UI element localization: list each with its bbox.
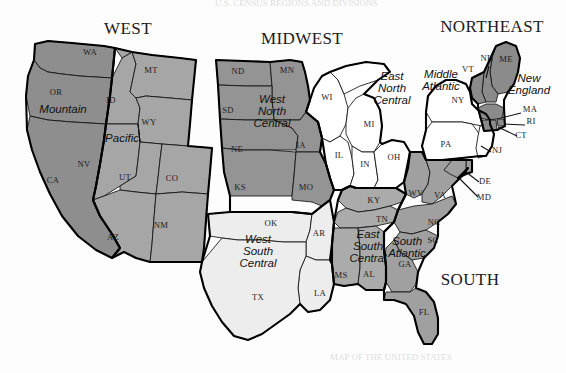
- state-label-FL: FL: [419, 307, 430, 317]
- state-label-AL: AL: [363, 269, 375, 279]
- state-label-WA: WA: [83, 47, 97, 57]
- state-label-ND: ND: [231, 66, 244, 76]
- state-label-AZ: AZ: [107, 232, 119, 242]
- state-label-KS: KS: [234, 182, 246, 192]
- state-label-NC: NC: [428, 217, 441, 227]
- state-label-NM: NM: [154, 220, 169, 230]
- state-label-GA: GA: [398, 259, 412, 269]
- region-heading-south: SOUTH: [441, 270, 500, 289]
- state-label-OK: OK: [264, 218, 278, 228]
- state-label-MS: MS: [334, 270, 347, 280]
- state-label-CO: CO: [166, 173, 179, 183]
- state-label-NH: NH: [480, 53, 493, 63]
- division-label-pacific: Pacific: [105, 132, 139, 144]
- state-label-MN: MN: [280, 65, 295, 75]
- state-label-OR: OR: [50, 87, 63, 97]
- state-label-NY: NY: [451, 95, 464, 105]
- callout-line-ri: [504, 124, 525, 125]
- state-label-IN: IN: [360, 159, 370, 169]
- state-label-ME: ME: [499, 54, 513, 64]
- division-label-line: Pacific: [105, 132, 139, 144]
- division-label-line: Central: [253, 117, 291, 129]
- state-label-VA: VA: [434, 190, 446, 200]
- region-heading-midwest: MIDWEST: [261, 29, 343, 48]
- state-label-WI: WI: [321, 92, 333, 102]
- state-label-UT: UT: [119, 172, 132, 182]
- state-label-MO: MO: [299, 182, 313, 192]
- division-label-line: East: [356, 228, 380, 240]
- division-label-line: East: [380, 70, 404, 82]
- division-label-line: Central: [373, 94, 411, 106]
- state-label-VT: VT: [462, 64, 475, 74]
- state-label-LA: LA: [314, 288, 327, 298]
- division-label-middle-atlantic: MiddleAtlantic: [421, 68, 460, 92]
- state-label-IA: IA: [296, 140, 306, 150]
- state-label-KY: KY: [367, 195, 380, 205]
- division-label-mountain: Mountain: [39, 103, 86, 115]
- division-label-line: West: [245, 233, 272, 245]
- state-label-NV: NV: [77, 159, 91, 169]
- state-label-WY: WY: [142, 117, 157, 127]
- division-label-line: South: [353, 240, 383, 252]
- state-label-SD: SD: [222, 105, 234, 115]
- region-heading-northeast: NORTHEAST: [440, 17, 544, 36]
- state-label-CA: CA: [47, 175, 60, 185]
- division-label-south-atlantic: SouthAtlantic: [387, 235, 426, 259]
- state-label-NE: NE: [231, 144, 243, 154]
- state-label-MD: MD: [477, 192, 491, 202]
- division-label-line: South: [243, 245, 273, 257]
- callout-line-de: [466, 172, 479, 182]
- state-label-RI: RI: [526, 116, 535, 126]
- state-label-MA: MA: [523, 104, 538, 114]
- state-CO: [156, 144, 212, 194]
- state-label-IL: IL: [335, 150, 344, 160]
- division-label-line: West: [259, 93, 286, 105]
- state-KS: [222, 148, 296, 196]
- state-label-CT: CT: [515, 130, 527, 140]
- division-label-line: North: [378, 82, 406, 94]
- division-label-line: Central: [239, 257, 277, 269]
- state-label-WV: WV: [409, 188, 424, 198]
- state-PA: [422, 122, 482, 160]
- callout-line-ct: [498, 127, 517, 136]
- division-label-line: Central: [349, 252, 387, 264]
- state-label-DE: DE: [479, 176, 491, 186]
- state-label-TX: TX: [252, 292, 265, 302]
- state-label-SC: SC: [427, 235, 438, 245]
- division-label-line: North: [258, 105, 286, 117]
- state-label-TN: TN: [376, 214, 389, 224]
- state-label-MI: MI: [363, 119, 374, 129]
- callout-line-md: [460, 179, 478, 197]
- state-label-PA: PA: [441, 139, 452, 149]
- division-label-line: Atlantic: [421, 80, 460, 92]
- division-label-line: Middle: [424, 68, 458, 80]
- state-label-NJ: NJ: [492, 145, 503, 155]
- us-map-svg: WESTMIDWESTNORTHEASTSOUTH PacificMountai…: [0, 0, 566, 373]
- state-label-AR: AR: [313, 228, 326, 238]
- division-label-line: South: [392, 235, 422, 247]
- region-heading-west: WEST: [104, 19, 152, 38]
- state-label-OH: OH: [387, 152, 400, 162]
- state-LA: [298, 256, 334, 312]
- state-label-ID: ID: [106, 95, 116, 105]
- division-label-line: New: [517, 72, 541, 84]
- division-label-line: Mountain: [39, 103, 86, 115]
- division-label-line: Atlantic: [387, 247, 426, 259]
- census-region-map: U.S. CENSUS REGIONS AND DIVISIONS MAP OF…: [0, 0, 566, 373]
- state-label-MT: MT: [144, 65, 158, 75]
- division-label-line: England: [508, 84, 551, 96]
